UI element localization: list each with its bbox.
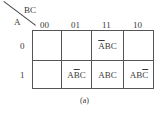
row-variable-label: A bbox=[14, 17, 21, 27]
figure-caption: (a) bbox=[80, 96, 89, 105]
row-header-0: 0 bbox=[20, 41, 25, 51]
column-header-11: 11 bbox=[102, 20, 111, 30]
cell-a1-bc01: ABC bbox=[62, 70, 91, 80]
grid-divider bbox=[32, 60, 154, 61]
row-header-1: 1 bbox=[20, 70, 25, 80]
cell-a1-bc10: ABC bbox=[124, 70, 154, 80]
column-header-00: 00 bbox=[40, 20, 49, 30]
column-header-10: 10 bbox=[133, 20, 142, 30]
cell-a1-bc11: ABC bbox=[92, 70, 123, 80]
column-variable-label: BC bbox=[24, 5, 36, 15]
cell-a0-bc11: ABC bbox=[92, 41, 123, 51]
column-header-01: 01 bbox=[71, 20, 80, 30]
